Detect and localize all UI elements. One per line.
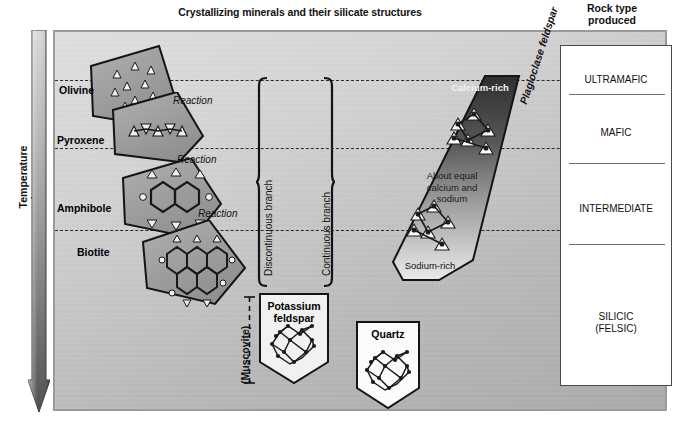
rock-type-column: ULTRAMAFIC MAFIC INTERMEDIATE SILICIC (F… — [560, 45, 672, 386]
potassium-feldspar-label: Potassium feldspar — [258, 300, 330, 324]
potassium-feldspar-shape: Potassium feldspar — [258, 292, 330, 385]
continuous-branch-label: Continuous branch — [321, 192, 332, 276]
rock-type-silicic: SILICIC (FELSIC) — [561, 311, 671, 335]
rock-type-silicic-line2: (FELSIC) — [561, 323, 671, 335]
mineral-label-amphibole: Amphibole — [57, 202, 111, 214]
rock-type-column-header: Rock type produced — [556, 2, 668, 26]
mineral-shape-biotite — [137, 220, 253, 312]
mineral-label-biotite: Biotite — [77, 246, 110, 258]
rock-type-intermediate: INTERMEDIATE — [561, 203, 671, 215]
plag-mid-line1: About equal — [397, 170, 507, 182]
rock-rule-2 — [569, 163, 665, 164]
potassium-feldspar-line1: Potassium — [258, 300, 330, 312]
reaction-label-2: Reaction — [177, 154, 216, 165]
rock-type-ultramafic: ULTRAMAFIC — [561, 74, 671, 86]
discontinuous-branch-label: Discontinuous branch — [263, 180, 274, 276]
rock-type-header-line1: Rock type — [556, 2, 668, 14]
rock-rule-1 — [569, 94, 665, 95]
mineral-label-olivine: Olivine — [59, 84, 94, 96]
rock-type-header-line2: produced — [556, 14, 668, 26]
page-title: Crystallizing minerals and their silicat… — [110, 6, 490, 18]
temperature-decreases-arrow — [28, 30, 50, 412]
rock-type-mafic: MAFIC — [561, 127, 671, 139]
plag-mid-line3: sodium — [397, 193, 507, 205]
muscovite-label: (Muscovite) — [239, 326, 251, 384]
plagioclase-sodium-rich-label: Sodium-rich — [375, 260, 485, 271]
rock-type-silicic-line1: SILICIC — [561, 311, 671, 323]
plagioclase-calcium-rich-label: Calcium-rich — [425, 82, 535, 93]
bowens-reaction-series-panel: Olivine Pyroxene — [53, 30, 667, 411]
plag-mid-line2: calcium and — [397, 182, 507, 194]
mineral-label-pyroxene: Pyroxene — [57, 134, 104, 146]
quartz-shape: Quartz — [355, 320, 421, 410]
reaction-label-1: Reaction — [173, 95, 212, 106]
plagioclase-intermediate-label: About equal calcium and sodium — [397, 170, 507, 205]
quartz-label: Quartz — [355, 328, 421, 340]
rock-rule-3 — [569, 244, 665, 245]
potassium-feldspar-line2: feldspar — [258, 312, 330, 324]
reaction-label-3: Reaction — [198, 208, 237, 219]
